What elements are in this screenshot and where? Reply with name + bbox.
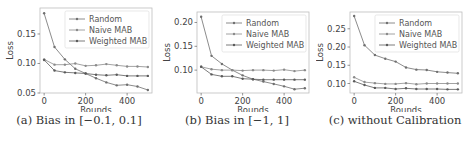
caption-a: (a) Bias in [−0.1, 0.1] bbox=[0, 113, 158, 127]
legend-label: Naive MAB bbox=[399, 30, 442, 39]
y-axis-label: Loss bbox=[162, 43, 172, 62]
x-axis-label: Rounds bbox=[237, 105, 269, 112]
y-tick-label: 0.10 bbox=[327, 79, 346, 89]
legend: RandomNaive MABWeighted MAB bbox=[65, 11, 149, 48]
y-axis-label: Loss bbox=[5, 41, 15, 60]
y-tick-label: 0.15 bbox=[174, 41, 193, 51]
x-tick-label: 400 bbox=[429, 96, 445, 106]
y-tick-label: 0.25 bbox=[327, 24, 346, 34]
subplot-b: 0.100.150.200200400RoundsLossRandomNaive… bbox=[158, 0, 316, 142]
legend-label: Random bbox=[399, 19, 432, 28]
caption-b: (b) Bias in [−1, 1] bbox=[158, 113, 316, 127]
chart-a: 0.050.100.150200400RoundsLossRandomNaive… bbox=[0, 0, 158, 112]
legend-label: Random bbox=[89, 15, 122, 24]
y-tick-label: 0.05 bbox=[17, 88, 36, 98]
x-axis-label: Rounds bbox=[80, 105, 112, 112]
chart-b: 0.100.150.200200400RoundsLossRandomNaive… bbox=[158, 0, 316, 112]
legend: RandomNaive MABWeighted MAB bbox=[222, 15, 306, 52]
y-tick-label: 0.10 bbox=[174, 65, 193, 75]
series-naive-mab bbox=[43, 58, 149, 68]
x-tick-label: 400 bbox=[276, 96, 292, 106]
series-naive-mab bbox=[200, 66, 306, 73]
y-axis-label: Loss bbox=[316, 43, 325, 62]
chart-c: 0.100.150.200.250200400RoundsLossRandomN… bbox=[316, 0, 475, 112]
y-tick-label: 0.10 bbox=[17, 58, 36, 68]
legend-label: Random bbox=[246, 19, 279, 28]
series-weighted-mab bbox=[200, 66, 306, 81]
y-tick-label: 0.20 bbox=[327, 42, 346, 52]
legend-label: Weighted MAB bbox=[246, 41, 304, 50]
x-tick-label: 0 bbox=[351, 96, 356, 106]
x-axis-label: Rounds bbox=[390, 105, 422, 112]
subplot-a: 0.050.100.150200400RoundsLossRandomNaive… bbox=[0, 0, 158, 142]
y-tick-label: 0.20 bbox=[174, 17, 193, 27]
legend: RandomNaive MABWeighted MAB bbox=[375, 15, 459, 52]
y-tick-label: 0.15 bbox=[17, 29, 36, 39]
series-weighted-mab bbox=[43, 59, 149, 77]
legend-label: Naive MAB bbox=[89, 26, 132, 35]
legend-label: Weighted MAB bbox=[399, 41, 457, 50]
series-naive-mab bbox=[353, 76, 459, 85]
subplot-c: 0.100.150.200.250200400RoundsLossRandomN… bbox=[316, 0, 474, 142]
x-tick-label: 400 bbox=[119, 96, 135, 106]
series-weighted-mab bbox=[353, 80, 459, 90]
legend-label: Naive MAB bbox=[246, 30, 289, 39]
legend-label: Weighted MAB bbox=[89, 37, 147, 46]
y-tick-label: 0.15 bbox=[327, 60, 346, 70]
caption-c: (c) without Calibration bbox=[316, 113, 474, 127]
x-tick-label: 0 bbox=[41, 96, 46, 106]
x-tick-label: 0 bbox=[198, 96, 203, 106]
